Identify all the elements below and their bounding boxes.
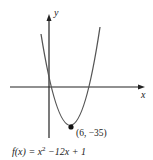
formula-suffix: −12x + 1 xyxy=(46,146,86,157)
formula-prefix: f(x) = x xyxy=(12,146,42,157)
y-axis-label: y xyxy=(54,7,58,18)
function-formula: f(x) = x2 −12x + 1 xyxy=(12,145,86,157)
vertex-label: (6, −35) xyxy=(76,128,107,138)
vertex-point xyxy=(68,124,73,129)
y-axis-arrow-icon xyxy=(47,14,52,21)
x-axis-label: x xyxy=(141,89,145,100)
parabola-curve xyxy=(41,27,100,125)
